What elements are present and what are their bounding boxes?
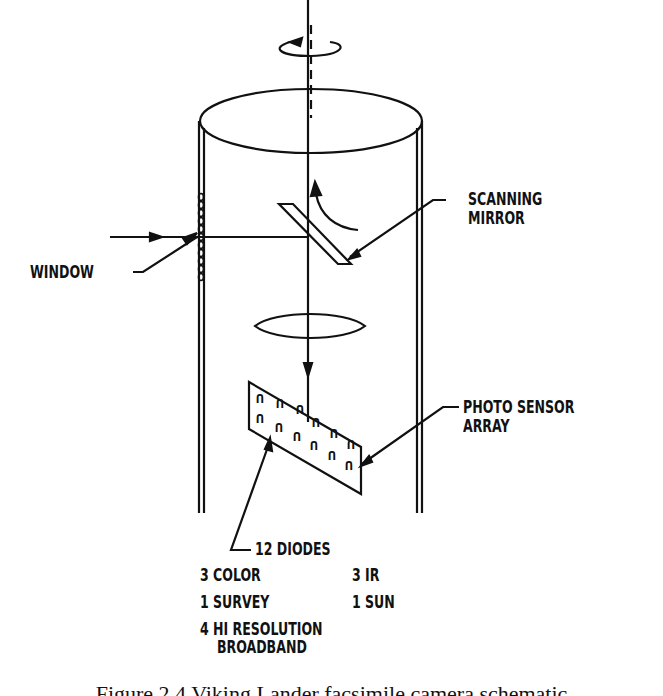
svg-text:Ո: Ո — [296, 402, 304, 417]
label-line: ARRAY — [463, 417, 574, 436]
label-line: PHOTO SENSOR — [463, 398, 574, 417]
svg-text:Ո: Ո — [310, 438, 318, 453]
diodes-row: 3 IR — [352, 566, 379, 585]
figure-caption: Figure 2.4 Viking Lander facsimile camer… — [0, 681, 663, 696]
svg-text:Ո: Ո — [276, 396, 284, 411]
svg-text:Ո: Ո — [345, 458, 353, 473]
photo-sensor-array — [249, 382, 361, 494]
diagram-canvas: ՈՈՈ ՈՈՈ ՈՈՈ ՈՈՈ SCANNING MIRROR WINDOW P… — [0, 0, 663, 696]
label-line: MIRROR — [468, 209, 542, 228]
diodes-row: BROADBAND — [217, 638, 307, 657]
svg-text:Ո: Ո — [275, 420, 283, 435]
svg-text:Ո: Ո — [293, 429, 301, 444]
svg-text:Ո: Ո — [312, 415, 320, 430]
diodes-title: 12 DIODES — [255, 540, 331, 559]
window-label: WINDOW — [30, 263, 94, 282]
photo-sensor-array-label: PHOTO SENSOR ARRAY — [463, 398, 574, 436]
diodes-row: 1 SUN — [352, 593, 395, 612]
svg-text:Ո: Ո — [256, 391, 264, 406]
label-line: SCANNING — [468, 190, 542, 209]
diodes-row: 1 SURVEY — [200, 593, 269, 612]
camera-schematic-drawing: ՈՈՈ ՈՈՈ ՈՈՈ ՈՈՈ — [0, 0, 663, 696]
scanning-mirror-label: SCANNING MIRROR — [468, 190, 542, 228]
lens — [255, 314, 365, 338]
svg-text:Ո: Ո — [347, 437, 355, 452]
diodes-row: 3 COLOR — [200, 566, 261, 585]
svg-text:Ո: Ո — [256, 411, 264, 426]
cylinder-top — [200, 89, 422, 153]
scanning-mirror — [279, 204, 351, 264]
svg-text:Ո: Ո — [328, 448, 336, 463]
svg-text:Ո: Ո — [330, 426, 338, 441]
